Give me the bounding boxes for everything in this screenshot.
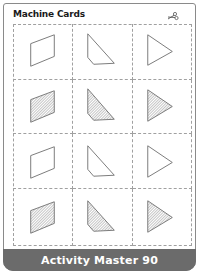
card-trapezoid[interactable]: [73, 24, 133, 80]
page-title: Machine Cards: [13, 9, 85, 19]
scissors-icon: [167, 11, 179, 21]
triangle-shape: [133, 134, 191, 188]
card-parallelogram[interactable]: [13, 24, 73, 80]
trapezoid-hatched-shape: [73, 80, 132, 133]
triangle-shape: [133, 24, 191, 79]
parallelogram-shape: [13, 134, 72, 188]
triangle-hatched-shape: [133, 80, 191, 133]
card-parallelogram-hatched[interactable]: [13, 189, 73, 246]
card-trapezoid-hatched[interactable]: [73, 80, 133, 134]
card-triangle[interactable]: [133, 24, 192, 80]
card-trapezoid[interactable]: [73, 134, 133, 189]
triangle-hatched-shape: [133, 189, 191, 245]
card-parallelogram[interactable]: [13, 134, 73, 189]
card-parallelogram-hatched[interactable]: [13, 80, 73, 134]
card-triangle[interactable]: [133, 134, 192, 189]
card-trapezoid-hatched[interactable]: [73, 189, 133, 246]
parallelogram-shape: [13, 24, 72, 79]
trapezoid-shape: [73, 134, 132, 188]
card-triangle-hatched[interactable]: [133, 189, 192, 246]
parallelogram-hatched-shape: [13, 189, 72, 245]
footer-banner: Activity Master 90: [3, 249, 196, 271]
trapezoid-hatched-shape: [73, 189, 132, 245]
card-triangle-hatched[interactable]: [133, 80, 192, 134]
trapezoid-shape: [73, 24, 132, 79]
card-grid: [13, 24, 192, 246]
parallelogram-hatched-shape: [13, 80, 72, 133]
footer-label: Activity Master 90: [41, 254, 158, 267]
